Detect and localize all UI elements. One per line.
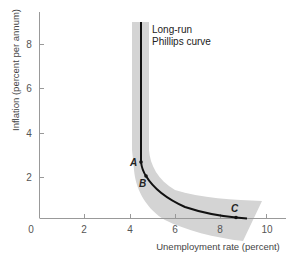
y-tick-label-6: 6 bbox=[26, 83, 32, 94]
x-tick-label-4: 4 bbox=[127, 224, 133, 235]
y-axis-title: Inflation (percent per annum) bbox=[10, 9, 21, 131]
x-axis-title: Unemployment rate (percent) bbox=[156, 241, 280, 252]
x-tick-label-6: 6 bbox=[172, 224, 178, 235]
point-c-marker bbox=[234, 216, 238, 220]
annotation-phillips-curve: Phillips curve bbox=[152, 36, 211, 47]
y-ticks bbox=[40, 45, 45, 178]
phillips-curve-chart: 8 6 4 2 0 2 4 6 8 10 Unemployment rate (… bbox=[0, 0, 293, 256]
x-tick-label-8: 8 bbox=[217, 224, 223, 235]
y-tick-label-2: 2 bbox=[26, 172, 32, 183]
point-a-label: A bbox=[129, 157, 137, 168]
x-tick-label-0: 0 bbox=[28, 224, 34, 235]
x-tick-label-10: 10 bbox=[261, 224, 273, 235]
point-c-label: C bbox=[231, 203, 239, 214]
y-tick-label-8: 8 bbox=[26, 39, 32, 50]
point-a-marker bbox=[139, 160, 143, 164]
phillips-curve-line bbox=[141, 22, 247, 219]
x-tick-label-2: 2 bbox=[81, 224, 87, 235]
annotation-long-run: Long-run bbox=[152, 24, 192, 35]
uncertainty-band bbox=[132, 22, 262, 241]
point-b-label: B bbox=[139, 178, 146, 189]
y-tick-label-4: 4 bbox=[26, 128, 32, 139]
